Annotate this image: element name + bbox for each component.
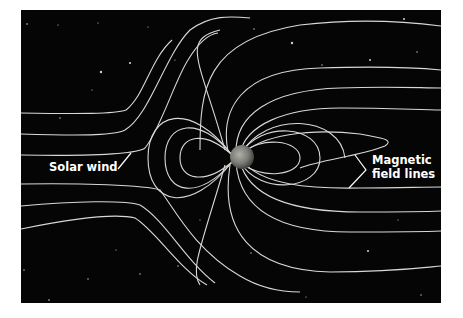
- solar-wind-pointer: [118, 153, 131, 169]
- earth-icon: [230, 145, 254, 169]
- field-lines-bracket: [349, 155, 366, 188]
- solar-wind-label: Solar wind: [49, 160, 118, 174]
- magnetic-label-line1: Magnetic: [372, 153, 435, 167]
- magnetic-field-lines-label: Magnetic field lines: [372, 153, 435, 181]
- magnetic-label-line2: field lines: [372, 167, 435, 181]
